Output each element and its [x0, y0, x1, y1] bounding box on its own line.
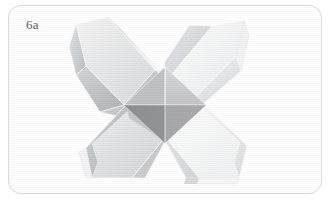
origami-illustration: [0, 0, 333, 202]
bottom-right-arm-crease-shadow: [184, 178, 199, 184]
figure-step-label: 6a: [26, 18, 39, 31]
figure-panel: 6a: [0, 0, 333, 202]
bottom-right-arm-crease-band: [197, 178, 239, 184]
